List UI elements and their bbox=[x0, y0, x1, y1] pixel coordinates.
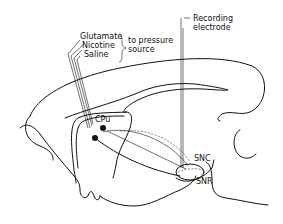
snc-snr-boundary bbox=[178, 169, 204, 172]
label-snr: SNR bbox=[196, 177, 213, 186]
label-saline: Saline bbox=[84, 50, 108, 59]
pathway-1 bbox=[103, 130, 188, 166]
injection-site-2 bbox=[92, 135, 98, 141]
label-source: source bbox=[128, 45, 155, 54]
label-to-pressure: to pressure bbox=[128, 36, 173, 45]
label-nicotine: Nicotine bbox=[82, 41, 115, 50]
cerebellum-notch bbox=[234, 130, 256, 158]
cortex-outline bbox=[30, 59, 265, 121]
label-electrode: electrode bbox=[193, 23, 231, 32]
olfactory-outline bbox=[25, 116, 53, 160]
label-glutamate: Glutamate bbox=[80, 32, 122, 41]
corpus-callosum bbox=[65, 84, 228, 118]
pathway-2 bbox=[107, 131, 186, 169]
brain-diagram: Glutamate Nicotine Saline to pressure so… bbox=[0, 0, 283, 224]
ventral-outline bbox=[20, 125, 100, 200]
label-cpu: CPu bbox=[95, 115, 110, 124]
label-recording: Recording bbox=[193, 14, 233, 23]
pathway-4 bbox=[120, 131, 190, 162]
striatum-boundary bbox=[113, 112, 132, 178]
injection-site-1 bbox=[100, 125, 106, 131]
pathway-3 bbox=[95, 138, 180, 176]
pons-outline bbox=[206, 162, 268, 205]
label-snc: SNC bbox=[194, 154, 211, 163]
